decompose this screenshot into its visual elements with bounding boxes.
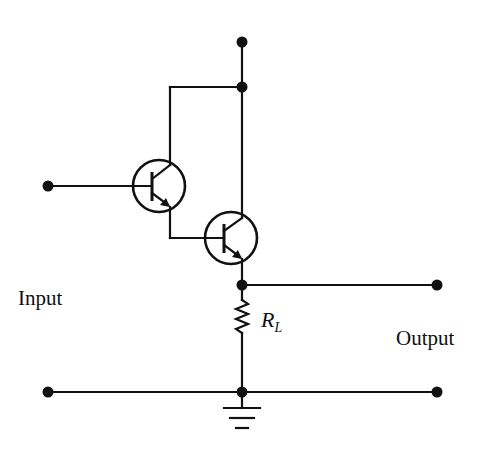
input-line	[43, 181, 153, 192]
circuit-diagram	[0, 0, 498, 452]
ground-icon	[224, 392, 260, 428]
common-right-terminal	[432, 387, 443, 398]
output-terminal	[432, 280, 443, 291]
resistor-label-sub: L	[274, 320, 282, 335]
resistor-label: RL	[261, 309, 282, 335]
supply-rail	[170, 37, 248, 219]
resistor-rl-icon	[236, 285, 248, 392]
transistor-q2-icon	[205, 212, 257, 285]
collector-junction	[237, 82, 248, 93]
output-node	[237, 280, 443, 291]
supply-terminal	[237, 37, 248, 48]
transistor-q1-icon	[133, 160, 224, 238]
input-label: Input	[18, 288, 62, 309]
output-label: Output	[396, 328, 454, 349]
resistor-label-main: R	[261, 307, 274, 332]
